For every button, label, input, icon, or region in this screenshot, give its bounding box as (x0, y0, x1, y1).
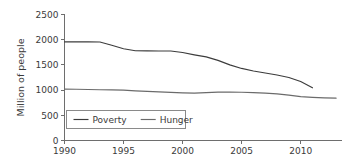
y-tick-label: 1500 (36, 60, 59, 70)
y-tick-label: 0 (53, 136, 59, 146)
x-axis-ticks (65, 141, 301, 145)
x-tick-label: 2000 (171, 146, 194, 156)
y-axis-tick-labels: 05001000150020002500 (36, 10, 59, 146)
x-tick-label: 1990 (53, 146, 76, 156)
y-tick-label: 2500 (36, 10, 59, 20)
data-series-layer (65, 42, 337, 98)
chart-canvas: 05001000150020002500 1990199520002005201… (0, 0, 348, 165)
x-axis-tick-labels: 19901995200020052010 (53, 146, 312, 156)
x-tick-label: 1995 (112, 146, 135, 156)
legend-label-poverty: Poverty (93, 115, 128, 125)
series-line-hunger (65, 89, 337, 98)
y-axis-ticks (61, 15, 65, 141)
x-axis-group: 19901995200020052010 (53, 141, 342, 156)
y-tick-label: 2000 (36, 35, 59, 45)
line-chart: 05001000150020002500 1990199520002005201… (0, 0, 348, 165)
x-tick-label: 2010 (289, 146, 312, 156)
y-tick-label: 500 (41, 111, 58, 121)
legend-label-hunger: Hunger (160, 115, 193, 125)
y-tick-label: 1000 (36, 85, 59, 95)
x-tick-label: 2005 (230, 146, 253, 156)
series-line-poverty (65, 42, 313, 88)
y-axis-title: Million of people (15, 38, 26, 116)
y-axis-group: 05001000150020002500 (36, 10, 65, 146)
chart-legend: PovertyHunger (67, 111, 194, 129)
